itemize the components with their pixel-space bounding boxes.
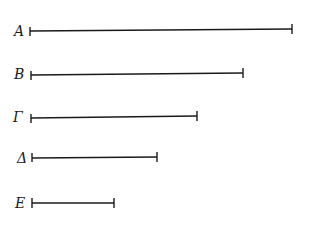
label-gamma: Γ (13, 110, 23, 124)
segment-a (30, 29, 292, 31)
segment-gamma (31, 116, 197, 118)
label-delta: Δ (17, 151, 27, 165)
label-e: E (15, 196, 25, 210)
label-b: B (14, 67, 24, 81)
segment-b (31, 73, 243, 75)
segment-delta (32, 157, 157, 158)
label-a: A (14, 24, 24, 38)
segments-canvas (0, 0, 310, 233)
